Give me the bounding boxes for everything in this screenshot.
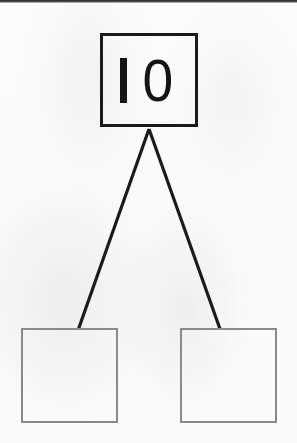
part-box-left[interactable] (21, 328, 118, 423)
whole-number-value: 10 (103, 36, 195, 128)
worksheet-canvas: 10 (0, 0, 297, 443)
part-box-right[interactable] (180, 328, 277, 423)
digit-one-glyph: 1 (120, 58, 127, 103)
connector-line-left (79, 129, 150, 329)
whole-number-box[interactable]: 10 (100, 33, 198, 127)
digit-zero-glyph: 0 (142, 58, 176, 103)
connector-line-right (149, 129, 220, 329)
